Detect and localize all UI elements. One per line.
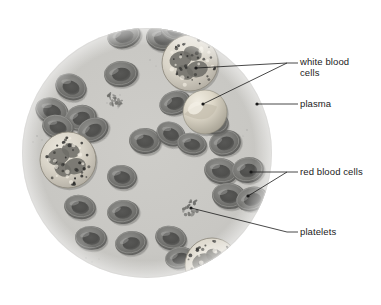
label-platelets-line1: platelets bbox=[300, 226, 336, 237]
label-white-blood-cells-line2: cells bbox=[300, 67, 320, 78]
label-plasma[interactable]: plasma bbox=[300, 99, 331, 110]
label-white-blood-cells-line1: white blood bbox=[300, 56, 349, 67]
label-red-blood-cells[interactable]: red blood cells bbox=[300, 167, 363, 178]
label-red-blood-cells-line1: red blood cells bbox=[300, 166, 363, 177]
blood-smear-illustration bbox=[0, 0, 381, 305]
label-white-blood-cells[interactable]: white blood cells bbox=[300, 57, 349, 78]
figure-canvas: white blood cells plasma red blood cells… bbox=[0, 0, 381, 305]
label-platelets[interactable]: platelets bbox=[300, 227, 336, 238]
label-plasma-line1: plasma bbox=[300, 98, 331, 109]
field-vignette bbox=[9, 15, 285, 291]
